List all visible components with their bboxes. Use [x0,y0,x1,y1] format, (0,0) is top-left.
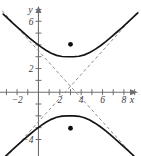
y-axis-label: y [27,4,33,15]
focus-upper-marker [68,42,73,47]
x-tick-label: 6 [100,95,105,105]
y-tick-label: 2 [29,64,34,74]
x-tick-label: 2 [57,95,62,105]
x-tick-labels: −22468 [12,95,127,105]
axis-ticks [6,9,134,139]
x-tick-label: −2 [12,95,23,105]
y-tick-label: 6 [29,17,34,27]
x-axis-label: x [129,94,135,105]
y-tick-label: −4 [22,135,33,145]
focus-lower-marker [68,126,73,131]
x-tick-label: 4 [79,95,84,105]
focus-markers [68,42,73,131]
hyperbola-figure: −22468 62−4 x y [0,0,141,156]
plot-canvas: −22468 62−4 x y [0,0,141,156]
x-tick-label: 8 [122,95,127,105]
